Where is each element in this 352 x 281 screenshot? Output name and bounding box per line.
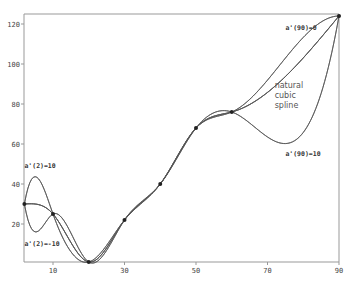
spline-curve <box>24 16 339 263</box>
annotation-label: spline <box>275 101 299 110</box>
spline-curve <box>24 16 339 262</box>
spline-curve <box>24 16 339 262</box>
x-tick-label: 90 <box>335 267 343 275</box>
annotation-label: natural <box>275 81 304 90</box>
x-tick-label: 50 <box>192 267 200 275</box>
x-tick-label: 30 <box>120 267 128 275</box>
annotation-label: a'(90)=10 <box>285 150 320 158</box>
knot-point <box>51 212 55 216</box>
x-tick-label: 10 <box>49 267 57 275</box>
knot-point <box>337 14 341 18</box>
y-tick-label: 40 <box>12 181 20 189</box>
knot-point <box>123 218 127 222</box>
spline-curves <box>24 16 339 263</box>
knot-points <box>22 14 341 264</box>
knot-point <box>194 126 198 130</box>
y-axis-ticks: 20406080100120 <box>7 21 24 229</box>
knot-point <box>22 202 26 206</box>
knot-point <box>87 260 91 264</box>
plot-frame <box>24 14 339 262</box>
x-tick-label: 70 <box>263 267 271 275</box>
spline-curve <box>24 16 339 263</box>
y-tick-label: 80 <box>12 101 20 109</box>
annotation-label: a'(90)=0 <box>285 24 316 32</box>
annotation-label: cubic <box>275 91 296 100</box>
annotation-label: a'(2)=-10 <box>24 240 59 248</box>
spline-curve <box>24 16 339 262</box>
spline-curve <box>24 16 339 262</box>
knot-point <box>230 110 234 114</box>
y-tick-label: 100 <box>7 61 20 69</box>
knot-point <box>158 182 162 186</box>
annotation-label: a'(2)=10 <box>24 162 55 170</box>
spline-curve <box>24 16 339 262</box>
annotations: a'(2)=10a'(2)=-10a'(90)=0naturalcubicspl… <box>24 24 320 248</box>
x-axis-ticks: 1030507090 <box>49 262 343 275</box>
y-tick-label: 120 <box>7 21 20 29</box>
y-tick-label: 60 <box>12 141 20 149</box>
y-tick-label: 20 <box>12 221 20 229</box>
spline-chart: 20406080100120 1030507090 a'(2)=10a'(2)=… <box>0 0 352 281</box>
